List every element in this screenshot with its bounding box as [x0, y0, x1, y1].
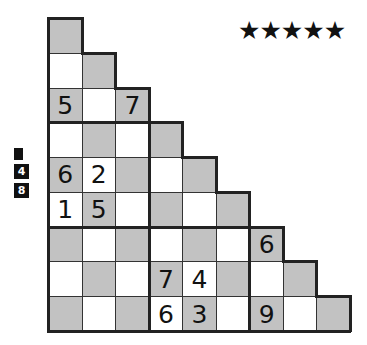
grid-cell[interactable]: [115, 122, 150, 158]
grid-border: [114, 52, 117, 89]
grid-cell[interactable]: [82, 122, 117, 158]
side-hints: 4 8: [14, 148, 30, 202]
grid-cell[interactable]: 3: [182, 296, 217, 332]
hint-chip: 4: [14, 164, 29, 179]
grid-cell[interactable]: [115, 296, 150, 332]
grid-border: [148, 87, 151, 124]
grid-border: [148, 122, 151, 331]
grid-cell[interactable]: 7: [115, 88, 150, 124]
grid-cell[interactable]: [216, 261, 251, 297]
grid-border: [47, 17, 83, 20]
grid-cell[interactable]: 2: [82, 157, 117, 193]
grid-border: [315, 295, 351, 298]
grid-cell[interactable]: [48, 122, 83, 158]
grid-border: [215, 156, 218, 193]
grid-border: [47, 121, 183, 124]
grid-cell[interactable]: [182, 192, 217, 228]
puzzle-grid: 576215674639: [48, 18, 350, 331]
grid-cell[interactable]: [216, 296, 251, 332]
grid-cell[interactable]: [82, 261, 117, 297]
grid-cell[interactable]: [115, 192, 150, 228]
grid-cell[interactable]: [149, 157, 184, 193]
grid-border: [81, 17, 84, 54]
grid-cell[interactable]: [82, 88, 117, 124]
grid-cell[interactable]: [283, 261, 318, 297]
hint-chip: [14, 148, 23, 160]
grid-cell[interactable]: [82, 53, 117, 89]
grid-cell[interactable]: [48, 227, 83, 263]
grid-cell[interactable]: [216, 227, 251, 263]
grid-border: [349, 295, 352, 332]
grid-border: [114, 87, 150, 90]
hint-chip: 8: [14, 183, 29, 198]
grid-cell[interactable]: 4: [182, 261, 217, 297]
grid-border: [248, 227, 251, 331]
grid-cell[interactable]: [149, 227, 184, 263]
grid-cell[interactable]: [48, 296, 83, 332]
grid-cell[interactable]: 6: [149, 296, 184, 332]
grid-border: [215, 191, 251, 194]
grid-cell[interactable]: 5: [82, 192, 117, 228]
grid-cell[interactable]: [48, 18, 83, 54]
grid-border: [181, 121, 184, 158]
grid-border: [248, 191, 251, 228]
grid-cell[interactable]: 7: [149, 261, 184, 297]
grid-cell[interactable]: [48, 261, 83, 297]
grid-cell[interactable]: [82, 227, 117, 263]
grid-border: [181, 156, 217, 159]
grid-cell[interactable]: [48, 53, 83, 89]
grid-cell[interactable]: [249, 261, 284, 297]
grid-cell[interactable]: 1: [48, 192, 83, 228]
grid-cell[interactable]: [115, 261, 150, 297]
grid-border: [81, 52, 117, 55]
grid-cell[interactable]: 6: [249, 227, 284, 263]
grid-border: [315, 260, 318, 297]
grid-cell[interactable]: [316, 296, 351, 332]
grid-cell[interactable]: [82, 296, 117, 332]
grid-cell[interactable]: [115, 157, 150, 193]
grid-cell[interactable]: [149, 192, 184, 228]
grid-cell[interactable]: 9: [249, 296, 284, 332]
grid-border: [47, 18, 50, 331]
grid-cell[interactable]: 6: [48, 157, 83, 193]
grid-cell[interactable]: [182, 157, 217, 193]
grid-cell[interactable]: [115, 227, 150, 263]
grid-cell[interactable]: [182, 227, 217, 263]
grid-border: [47, 330, 351, 333]
grid-cell[interactable]: [216, 192, 251, 228]
grid-border: [282, 226, 285, 263]
grid-cell[interactable]: [149, 122, 184, 158]
grid-cell[interactable]: 5: [48, 88, 83, 124]
grid-border: [282, 260, 318, 263]
grid-cell[interactable]: [283, 296, 318, 332]
